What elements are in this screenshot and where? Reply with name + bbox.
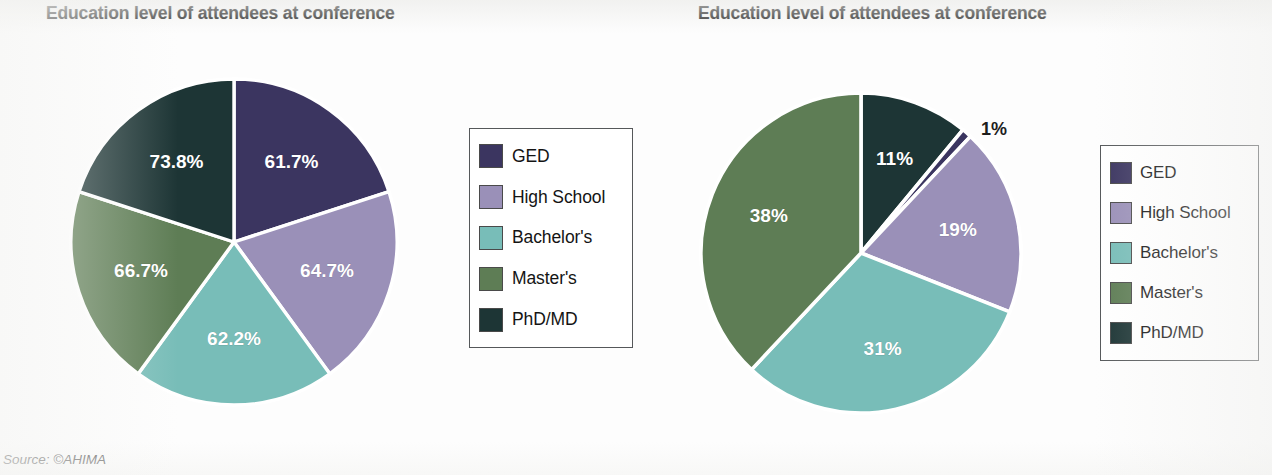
legend-label-masters: Master's — [512, 268, 577, 289]
legend-swatch-high-school — [479, 185, 503, 209]
pie-right-svg: 11%1%19%31%38% — [698, 90, 1024, 416]
legend-right: GED High School Bachelor's Master's PhD/… — [1100, 145, 1259, 361]
legend-item-ged[interactable]: GED — [1110, 153, 1247, 193]
chart-panel-left: Education level of attendees at conferen… — [0, 0, 636, 475]
legend-left: GED High School Bachelor's Master's PhD/… — [469, 128, 633, 348]
legend-swatch-phd-md — [1110, 322, 1132, 344]
legend-swatch-ged — [479, 144, 503, 168]
legend-item-high-school[interactable]: High School — [479, 177, 621, 218]
legend-label-high-school: High School — [1140, 203, 1231, 223]
slice-label-phd-md: 11% — [876, 148, 913, 169]
legend-label-ged: GED — [512, 146, 550, 167]
slice-label-phd-md: 73.8% — [150, 151, 204, 172]
legend-swatch-phd-md — [479, 308, 503, 332]
legend-label-phd-md: PhD/MD — [512, 309, 578, 330]
slice-label-high-school: 64.7% — [300, 260, 354, 281]
chart-title-right: Education level of attendees at conferen… — [698, 3, 1047, 24]
legend-label-bachelors: Bachelor's — [512, 227, 592, 248]
legend-label-ged: GED — [1140, 163, 1177, 183]
source-note: Source: ©AHIMA — [3, 452, 106, 467]
legend-label-high-school: High School — [512, 187, 605, 208]
legend-item-masters[interactable]: Master's — [479, 258, 621, 299]
slice-label-master-s: 38% — [750, 205, 788, 226]
slice-label-bachelor-s: 62.2% — [207, 328, 261, 349]
legend-swatch-masters — [1110, 282, 1132, 304]
slice-label-bachelor-s: 31% — [864, 338, 902, 359]
slice-label-high-school: 19% — [939, 219, 977, 240]
legend-item-high-school[interactable]: High School — [1110, 193, 1247, 233]
legend-item-phd-md[interactable]: PhD/MD — [1110, 313, 1247, 353]
chart-panel-right: Education level of attendees at conferen… — [636, 0, 1272, 475]
legend-label-bachelors: Bachelor's — [1140, 243, 1218, 263]
chart-title-left: Education level of attendees at conferen… — [46, 3, 395, 24]
legend-label-masters: Master's — [1140, 283, 1203, 303]
slice-label-master-s: 66.7% — [114, 260, 168, 281]
legend-swatch-ged — [1110, 162, 1132, 184]
legend-item-bachelors[interactable]: Bachelor's — [479, 218, 621, 259]
legend-swatch-bachelors — [479, 226, 503, 250]
legend-item-bachelors[interactable]: Bachelor's — [1110, 233, 1247, 273]
slice-label-ged: 61.7% — [265, 151, 319, 172]
legend-item-ged[interactable]: GED — [479, 136, 621, 177]
legend-swatch-bachelors — [1110, 242, 1132, 264]
legend-label-phd-md: PhD/MD — [1140, 323, 1204, 343]
legend-item-phd-md[interactable]: PhD/MD — [479, 299, 621, 340]
legend-item-masters[interactable]: Master's — [1110, 273, 1247, 313]
pie-left-svg: 61.7%64.7%62.2%66.7%73.8% — [68, 76, 400, 408]
pie-chart-right: 11%1%19%31%38% — [698, 90, 1024, 416]
legend-swatch-masters — [479, 267, 503, 291]
slice-label-ged: 1% — [981, 119, 1007, 139]
legend-swatch-high-school — [1110, 202, 1132, 224]
pie-chart-left: 61.7%64.7%62.2%66.7%73.8% — [68, 76, 400, 408]
